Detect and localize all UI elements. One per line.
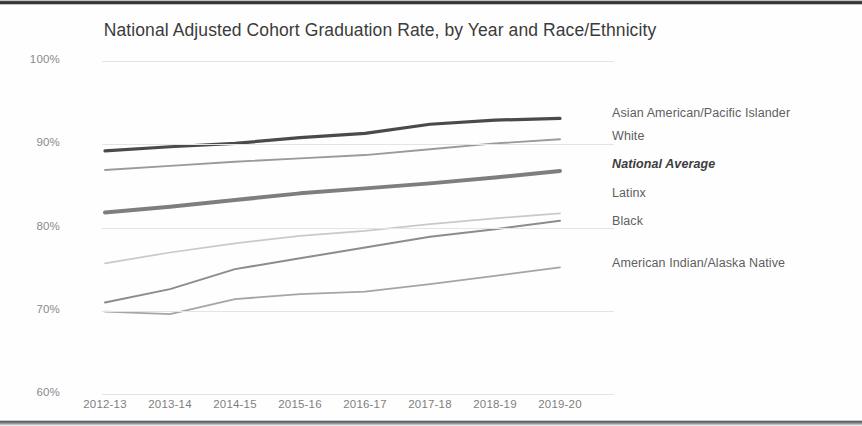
series-line (105, 213, 560, 263)
plot-area (64, 6, 614, 420)
x-tick-label: 2018-19 (473, 398, 517, 410)
x-tick-label: 2012-13 (83, 398, 127, 410)
scan-edge-top (0, 0, 862, 5)
gridline (102, 144, 614, 145)
series-line (105, 171, 560, 213)
y-tick-label: 100% (14, 53, 60, 65)
legend-label-asian-american-pacific-islander: Asian American/Pacific Islander (612, 106, 790, 120)
legend-label-american-indian-alaska-native: American Indian/Alaska Native (612, 256, 785, 270)
gridline (102, 61, 614, 62)
chart-figure: National Adjusted Cohort Graduation Rate… (0, 6, 862, 420)
y-tick-label: 60% (14, 386, 60, 398)
chart-legend: Asian American/Pacific IslanderWhiteNati… (612, 6, 862, 420)
x-tick-label: 2014-15 (213, 398, 257, 410)
y-tick-label: 90% (14, 136, 60, 148)
y-tick-label: 80% (14, 220, 60, 232)
series-line (105, 267, 560, 314)
legend-label-national-average: National Average (612, 157, 715, 171)
legend-label-latinx: Latinx (612, 186, 646, 200)
gridline (102, 228, 614, 229)
legend-label-black: Black (612, 214, 643, 228)
scan-edge-bottom (0, 420, 862, 426)
gridline (102, 394, 614, 395)
x-tick-label: 2015-16 (278, 398, 322, 410)
x-tick-label: 2017-18 (408, 398, 452, 410)
gridline (102, 311, 614, 312)
x-axis-tick-labels: 2012-132013-142014-152015-162016-172017-… (64, 398, 614, 418)
x-tick-label: 2013-14 (148, 398, 192, 410)
legend-label-white: White (612, 129, 644, 143)
series-line (105, 118, 560, 150)
y-axis-tick-labels: 100%90%80%70%60% (14, 6, 60, 420)
series-lines-svg (64, 6, 614, 420)
x-tick-label: 2019-20 (538, 398, 582, 410)
y-tick-label: 70% (14, 303, 60, 315)
x-tick-label: 2016-17 (343, 398, 387, 410)
